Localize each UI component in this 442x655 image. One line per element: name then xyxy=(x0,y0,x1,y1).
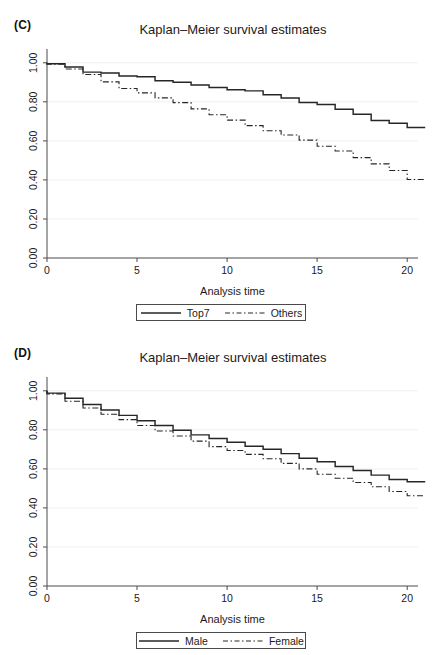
km-curve-male xyxy=(47,391,425,482)
legend-entry-male: Male xyxy=(138,635,208,647)
legend-entry-female: Female xyxy=(222,635,304,647)
legend-label: Top7 xyxy=(187,307,210,319)
panel-d-legend: MaleFemale xyxy=(136,632,306,649)
y-tick-label: 0.40 xyxy=(27,170,39,191)
panel-c-plot: 0.000.200.400.600.801.0005101520Analysis… xyxy=(0,0,442,300)
km-curve-others xyxy=(47,63,425,180)
y-tick-label: 0.80 xyxy=(27,91,39,112)
y-tick-label: 1.00 xyxy=(27,52,39,73)
x-tick-label: 0 xyxy=(44,264,50,276)
y-tick-label: 0.40 xyxy=(27,498,39,519)
legend-label: Male xyxy=(185,635,208,647)
y-tick-label: 1.00 xyxy=(27,380,39,401)
y-tick-label: 0.60 xyxy=(27,131,39,152)
x-tick-label: 15 xyxy=(311,592,323,604)
x-axis-title: Analysis time xyxy=(200,613,265,625)
panel-c-legend: Top7Others xyxy=(136,304,306,321)
legend-swatch-solid xyxy=(140,309,182,317)
panel-c: (C) Kaplan–Meier survival estimates 0.00… xyxy=(0,0,442,327)
x-tick-label: 20 xyxy=(401,592,413,604)
legend-label: Others xyxy=(271,307,303,319)
y-tick-label: 0.00 xyxy=(27,248,39,269)
x-tick-label: 10 xyxy=(221,592,233,604)
x-tick-label: 5 xyxy=(134,264,140,276)
y-tick-label: 0.80 xyxy=(27,419,39,440)
x-tick-label: 20 xyxy=(401,264,413,276)
panel-d-plot: 0.000.200.400.600.801.0005101520Analysis… xyxy=(0,328,442,628)
legend-swatch-solid xyxy=(138,637,180,645)
y-tick-label: 0.60 xyxy=(27,459,39,480)
km-curve-female xyxy=(47,391,425,496)
legend-entry-top7: Top7 xyxy=(140,307,210,319)
y-tick-label: 0.00 xyxy=(27,576,39,597)
x-tick-label: 10 xyxy=(221,264,233,276)
panel-d: (D) Kaplan–Meier survival estimates 0.00… xyxy=(0,328,442,655)
legend-swatch-dashdot xyxy=(222,637,264,645)
x-tick-label: 0 xyxy=(44,592,50,604)
x-tick-label: 15 xyxy=(311,264,323,276)
km-curve-top7 xyxy=(47,63,425,128)
legend-label: Female xyxy=(269,635,304,647)
legend-swatch-dashdot xyxy=(224,309,266,317)
y-tick-label: 0.20 xyxy=(27,537,39,558)
x-tick-label: 5 xyxy=(134,592,140,604)
legend-entry-others: Others xyxy=(224,307,303,319)
y-tick-label: 0.20 xyxy=(27,209,39,230)
x-axis-title: Analysis time xyxy=(200,285,265,297)
